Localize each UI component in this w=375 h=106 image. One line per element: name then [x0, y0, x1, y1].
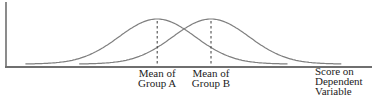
- curve-group-b: [79, 19, 341, 64]
- distribution-figure: Mean of Group A Mean of Group B Score on…: [0, 0, 375, 106]
- curve-group-a: [25, 19, 287, 64]
- mean-group-b-label: Mean of Group B: [192, 68, 230, 88]
- x-axis-label: Score on Dependent Variable: [315, 66, 363, 96]
- mean-group-a-label: Mean of Group A: [138, 68, 176, 88]
